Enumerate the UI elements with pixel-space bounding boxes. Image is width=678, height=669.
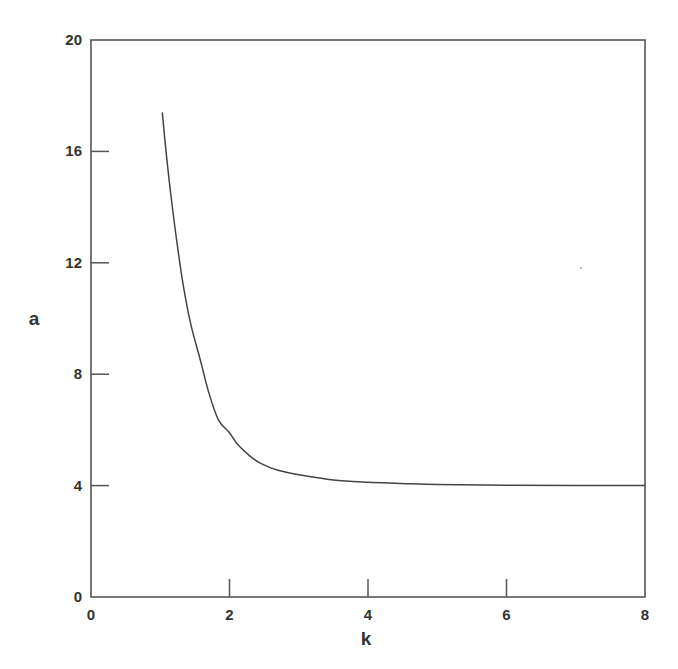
x-tick-label: 4: [364, 606, 373, 623]
data-curve: [162, 112, 645, 485]
x-tick-label: 0: [87, 606, 95, 623]
y-tick-label: 20: [65, 31, 82, 48]
artifact-dot: [580, 267, 582, 269]
y-axis-label: a: [29, 308, 40, 329]
x-tick-labels: 02468: [87, 606, 649, 623]
y-tick-label: 12: [65, 254, 82, 271]
axis-ticks: [91, 151, 507, 597]
y-tick-labels: 048121620: [65, 31, 82, 605]
line-chart: 048121620 02468 a k: [0, 0, 678, 669]
y-tick-label: 16: [65, 142, 82, 159]
y-tick-label: 8: [74, 365, 82, 382]
plot-frame: [91, 40, 645, 597]
y-tick-label: 0: [74, 588, 82, 605]
x-axis-label: k: [361, 628, 372, 649]
x-tick-label: 6: [502, 606, 510, 623]
x-tick-label: 2: [225, 606, 233, 623]
x-tick-label: 8: [641, 606, 649, 623]
y-tick-label: 4: [74, 477, 83, 494]
